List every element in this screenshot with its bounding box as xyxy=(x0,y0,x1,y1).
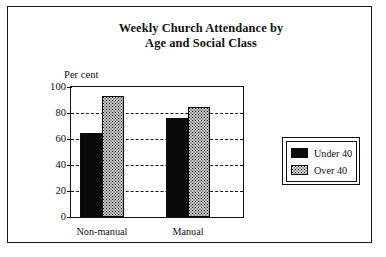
y-tick-label-40: 40 xyxy=(40,160,66,171)
x-tick-label-manual: Manual xyxy=(172,226,203,237)
chart-title-line-2: Age and Social Class xyxy=(68,36,334,51)
y-tick-mark-0 xyxy=(67,217,72,218)
y-axis-unit-label: Per cent xyxy=(64,69,98,80)
y-tick-label-80: 80 xyxy=(40,108,66,119)
y-tick-label-0: 0 xyxy=(40,212,66,223)
legend-label-under-40: Under 40 xyxy=(314,148,352,159)
y-tick-label-20: 20 xyxy=(40,186,66,197)
x-tick-label-non-manual: Non-manual xyxy=(76,226,127,237)
legend-item-under-40: Under 40 xyxy=(291,145,354,161)
chart-figure: Weekly Church Attendance by Age and Soci… xyxy=(0,0,386,257)
bar-series-container xyxy=(71,87,243,217)
bar-non-manual-under-40 xyxy=(80,133,102,218)
y-tick-label-100: 100 xyxy=(40,82,66,93)
y-tick-label-60: 60 xyxy=(40,134,66,145)
legend-swatch-under-40 xyxy=(291,148,308,158)
chart-title-line-1: Weekly Church Attendance by xyxy=(119,21,284,35)
chart-title: Weekly Church Attendance by Age and Soci… xyxy=(68,21,334,50)
plot-area: 020406080100 Non-manualManual xyxy=(70,86,244,218)
figure-frame: Weekly Church Attendance by Age and Soci… xyxy=(7,6,372,243)
bar-manual-over-40 xyxy=(188,107,210,218)
legend-label-over-40: Over 40 xyxy=(314,165,347,176)
legend-item-over-40: Over 40 xyxy=(291,162,354,178)
bar-manual-under-40 xyxy=(166,118,188,217)
legend-swatch-over-40 xyxy=(291,165,308,175)
bar-non-manual-over-40 xyxy=(102,96,124,217)
chart-legend: Under 40 Over 40 xyxy=(282,137,360,185)
